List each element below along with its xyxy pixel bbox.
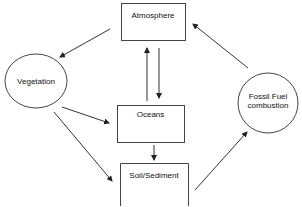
fossil-fuel-label-line2: combustion — [238, 101, 298, 110]
arrow-vegetation-to-soil — [54, 112, 112, 181]
arrow-fossil-fuel-to-atmosphere — [193, 24, 248, 68]
arrow-vegetation-to-oceans — [62, 107, 109, 123]
vegetation-label: Vegetation — [6, 77, 66, 86]
soil-sediment-label: Soil/Sediment — [120, 171, 188, 180]
fossil-fuel-label-line1: Fossil Fuel — [238, 92, 298, 101]
arrow-soil-to-fossil-fuel — [195, 132, 247, 190]
arrow-atmosphere-to-vegetation — [60, 29, 110, 57]
atmosphere-label: Atmosphere — [121, 11, 185, 20]
atmosphere-box — [122, 4, 186, 41]
oceans-label: Oceans — [117, 110, 184, 119]
soil-sediment-box — [121, 164, 189, 207]
